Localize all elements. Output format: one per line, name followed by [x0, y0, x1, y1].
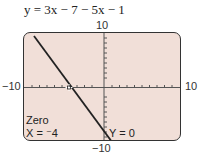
y-readout: Y = 0	[109, 127, 135, 139]
calculator-screen: Zero X = ⁻4 Y = 0	[23, 32, 181, 141]
x-readout: X = ⁻4	[26, 127, 58, 140]
ymin-label: −10	[92, 142, 111, 154]
ymax-label: 10	[96, 19, 108, 31]
xmax-label: 10	[185, 80, 197, 92]
mode-label: Zero	[26, 114, 49, 126]
trace-cursor[interactable]	[66, 84, 73, 91]
xmin-label: −10	[2, 80, 21, 92]
equation-label: y = 3x − 7 − 5x − 1	[24, 2, 125, 18]
